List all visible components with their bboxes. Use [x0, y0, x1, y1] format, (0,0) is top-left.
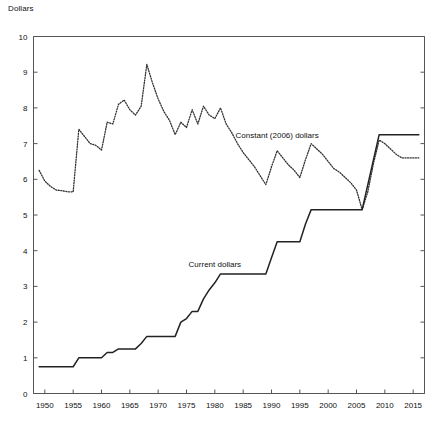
- svg-text:7: 7: [23, 140, 28, 149]
- axis-tick-marks: [34, 37, 425, 394]
- svg-text:6: 6: [23, 175, 28, 184]
- svg-text:4: 4: [23, 247, 28, 256]
- minimum-wage-line-chart: 012345678910 195019551960196519701975198…: [0, 0, 448, 431]
- svg-text:1980: 1980: [206, 401, 224, 410]
- y-axis-tick-labels: 012345678910: [19, 33, 28, 399]
- svg-text:2: 2: [23, 318, 28, 327]
- svg-text:9: 9: [23, 68, 28, 77]
- svg-text:1970: 1970: [149, 401, 167, 410]
- svg-text:Constant (2006) dollars: Constant (2006) dollars: [236, 131, 319, 140]
- svg-text:5: 5: [23, 211, 28, 220]
- svg-text:2000: 2000: [319, 401, 337, 410]
- svg-text:2010: 2010: [376, 401, 394, 410]
- svg-text:3: 3: [23, 282, 28, 291]
- svg-text:0: 0: [23, 390, 28, 399]
- svg-text:2005: 2005: [348, 401, 366, 410]
- svg-text:1950: 1950: [36, 401, 54, 410]
- series-annotation-labels: Current dollarsConstant (2006) dollars: [189, 131, 319, 269]
- svg-text:1960: 1960: [93, 401, 111, 410]
- svg-text:10: 10: [19, 33, 28, 42]
- series-line-current-dollars: [39, 135, 419, 367]
- svg-text:1955: 1955: [64, 401, 82, 410]
- svg-text:8: 8: [23, 104, 28, 113]
- series-line-constant-dollars: [39, 64, 419, 209]
- chart-container: Dollars 012345678910 1950195519601965197…: [0, 0, 448, 431]
- x-axis-tick-labels: 1950195519601965197019751980198519901995…: [36, 401, 423, 410]
- svg-text:Current dollars: Current dollars: [189, 260, 241, 269]
- svg-text:1990: 1990: [263, 401, 281, 410]
- svg-text:2015: 2015: [404, 401, 422, 410]
- svg-text:1985: 1985: [234, 401, 252, 410]
- svg-text:1: 1: [23, 354, 28, 363]
- svg-text:1995: 1995: [291, 401, 309, 410]
- svg-text:1965: 1965: [121, 401, 139, 410]
- svg-text:1975: 1975: [178, 401, 196, 410]
- axis-frame: [34, 37, 425, 394]
